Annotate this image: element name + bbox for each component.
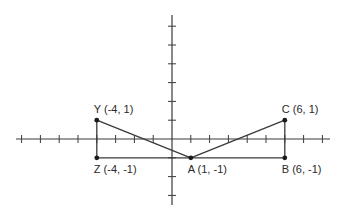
label-point-Z: Z (-4, -1): [94, 163, 137, 175]
point-A: [188, 155, 193, 160]
label-point-Y: Y (-4, 1): [94, 103, 134, 115]
coordinate-plane: Y (-4, 1)Z (-4, -1)A (1, -1)B (6, -1)C (…: [0, 0, 341, 213]
label-point-B: B (6, -1): [282, 163, 322, 175]
label-point-C: C (6, 1): [282, 103, 319, 115]
label-point-A: A (1, -1): [188, 163, 227, 175]
point-C: [282, 118, 287, 123]
point-Y: [94, 118, 99, 123]
point-B: [282, 155, 287, 160]
point-Z: [94, 155, 99, 160]
coordinate-plane-diagram: Y (-4, 1)Z (-4, -1)A (1, -1)B (6, -1)C (…: [0, 0, 341, 213]
